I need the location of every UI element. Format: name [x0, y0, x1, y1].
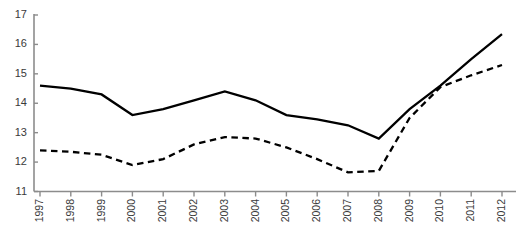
- y-tick-label: 17: [5, 9, 27, 20]
- x-tick-label: 2001: [157, 199, 167, 222]
- x-tick-label: 1998: [65, 199, 75, 222]
- x-tick-label: 2005: [280, 199, 290, 222]
- x-tick-label: 1997: [34, 199, 44, 222]
- y-tick-label: 16: [5, 38, 27, 49]
- y-tick-label: 13: [5, 127, 27, 138]
- y-tick-label: 14: [5, 97, 27, 108]
- chart-series: [40, 34, 502, 172]
- x-tick-label: 2010: [434, 199, 444, 222]
- series-line-series-dashed: [40, 65, 502, 172]
- x-tick-label: 2003: [219, 199, 229, 222]
- x-tick-label: 2011: [465, 199, 475, 222]
- series-line-series-solid: [40, 34, 502, 138]
- x-tick-label: 2008: [373, 199, 383, 222]
- chart-axes: [34, 14, 516, 197]
- x-tick-label: 2004: [250, 199, 260, 222]
- y-tick-label: 12: [5, 156, 27, 167]
- x-tick-label: 1999: [96, 199, 106, 222]
- x-tick-label: 2012: [496, 199, 506, 222]
- y-tick-label: 11: [5, 186, 27, 197]
- chart-canvas: [0, 0, 524, 234]
- x-tick-label: 2006: [311, 199, 321, 222]
- x-tick-label: 2000: [126, 199, 136, 222]
- y-tick-label: 15: [5, 68, 27, 79]
- line-chart: 11121314151617 1997199819992000200120022…: [0, 0, 524, 234]
- x-tick-label: 2002: [188, 199, 198, 222]
- x-tick-label: 2009: [404, 199, 414, 222]
- x-tick-label: 2007: [342, 199, 352, 222]
